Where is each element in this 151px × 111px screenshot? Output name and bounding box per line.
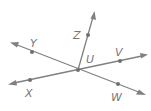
point-V: [118, 59, 122, 63]
label-V: V: [115, 46, 124, 59]
point-W: [116, 82, 120, 86]
point-U: [76, 68, 80, 72]
point-X: [28, 78, 32, 82]
point-Z: [86, 33, 90, 37]
label-Z: Z: [72, 29, 81, 42]
point-Y: [30, 50, 34, 54]
arrowhead-X-end-icon: [8, 80, 17, 86]
arrowhead-Z-end-icon: [91, 11, 97, 20]
label-U: U: [86, 53, 94, 66]
label-X: X: [24, 87, 33, 100]
arrowhead-V-end-icon: [140, 53, 148, 59]
label-Y: Y: [30, 37, 38, 50]
diagram-canvas: U Z Y X V W: [0, 0, 151, 111]
arrowhead-Y-end-icon: [10, 42, 19, 48]
label-W: W: [111, 91, 123, 104]
arrowhead-W-end-icon: [136, 90, 146, 96]
geometry-diagram: U Z Y X V W: [0, 0, 151, 111]
